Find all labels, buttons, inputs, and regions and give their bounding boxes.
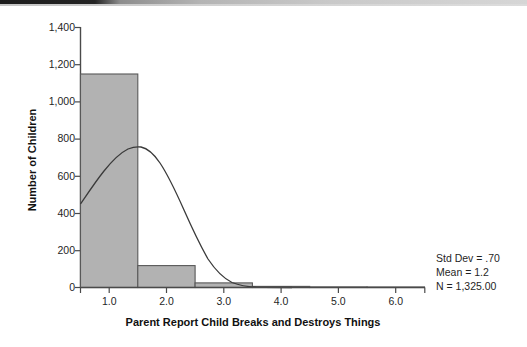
y-axis-tick-labels: 1,400 1,200 1,000 800 600 400 200 0 bbox=[49, 21, 75, 293]
stat-std-dev: Std Dev = .70 bbox=[436, 252, 500, 264]
y-tick-label: 200 bbox=[57, 244, 75, 256]
y-axis-title: Number of Children bbox=[26, 108, 38, 211]
x-tick-label: 4.0 bbox=[274, 295, 289, 307]
y-tick-label: 1,400 bbox=[49, 21, 75, 33]
y-tick-label: 800 bbox=[57, 132, 75, 144]
bar-bin-1 bbox=[81, 74, 138, 288]
x-tick-label: 6.0 bbox=[388, 295, 403, 307]
histogram-chart: Number of Children 1,400 1,200 1,000 800… bbox=[0, 0, 527, 347]
histogram-bars bbox=[81, 74, 425, 288]
chart-svg: Number of Children 1,400 1,200 1,000 800… bbox=[0, 0, 527, 347]
stat-mean: Mean = 1.2 bbox=[436, 266, 489, 278]
y-tick-label: 600 bbox=[57, 170, 75, 182]
y-tick-label: 0 bbox=[69, 281, 75, 293]
y-axis bbox=[75, 27, 81, 288]
x-tick-label: 5.0 bbox=[331, 295, 346, 307]
x-axis bbox=[81, 288, 426, 294]
y-tick-label: 1,200 bbox=[49, 58, 75, 70]
x-tick-label: 2.0 bbox=[159, 295, 174, 307]
bar-bin-2 bbox=[138, 266, 195, 288]
x-tick-label: 1.0 bbox=[102, 295, 117, 307]
stats-annotation: Std Dev = .70 Mean = 1.2 N = 1,325.00 bbox=[436, 252, 500, 292]
x-axis-title: Parent Report Child Breaks and Destroys … bbox=[126, 316, 381, 328]
x-tick-label: 3.0 bbox=[216, 295, 231, 307]
x-axis-tick-labels: 1.0 2.0 3.0 4.0 5.0 6.0 bbox=[102, 295, 403, 307]
stat-n: N = 1,325.00 bbox=[436, 280, 497, 292]
y-tick-label: 400 bbox=[57, 207, 75, 219]
y-tick-label: 1,000 bbox=[49, 95, 75, 107]
